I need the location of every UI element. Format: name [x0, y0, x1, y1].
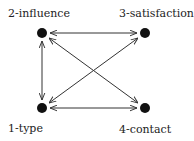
node-influence: [37, 28, 47, 38]
causal-diagram: 1-type 2-influence 3-satisfaction 4-cont…: [0, 0, 194, 141]
diagram-edges: [0, 0, 194, 141]
label-contact: 4-contact: [119, 123, 171, 136]
node-contact: [140, 103, 150, 113]
label-influence: 2-influence: [8, 7, 70, 20]
node-satisfaction: [140, 28, 150, 38]
label-type: 1-type: [8, 122, 43, 135]
node-type: [37, 103, 47, 113]
label-satisfaction: 3-satisfaction: [119, 7, 194, 20]
